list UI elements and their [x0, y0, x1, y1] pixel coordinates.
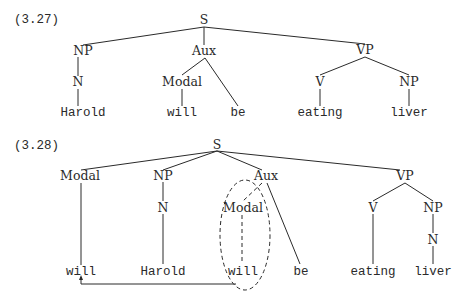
example-number: (3.27): [14, 14, 59, 27]
dashed-branch-aux-modal: [243, 183, 262, 201]
node-aux: Aux: [254, 170, 278, 183]
word-liver: liver: [414, 266, 452, 279]
node-np: NP: [73, 45, 92, 58]
word-will-fronted: will: [66, 266, 96, 279]
node-vp: VP: [356, 44, 373, 57]
node-s: S: [213, 139, 222, 152]
node-np-object: NP: [399, 76, 418, 89]
branch-vp-v: [373, 183, 405, 201]
word-eating: eating: [297, 107, 342, 120]
branch-s-vp: [204, 27, 365, 44]
word-eating: eating: [350, 266, 395, 279]
branch-s-modal: [81, 151, 217, 170]
node-s: S: [200, 14, 209, 27]
node-v: V: [368, 202, 377, 215]
branch-s-np: [83, 27, 204, 45]
tree-branches: [0, 0, 466, 297]
node-modal-fronted: Modal: [60, 170, 100, 183]
word-be: be: [293, 266, 308, 279]
branch-s-vp: [217, 151, 400, 170]
node-np-object: NP: [423, 202, 442, 215]
node-aux: Aux: [192, 45, 216, 58]
node-modal: Modal: [162, 76, 202, 89]
node-v: V: [315, 76, 324, 89]
example-number: (3.28): [14, 140, 59, 153]
node-np: NP: [153, 170, 172, 183]
branch-aux-modal: [182, 58, 205, 75]
word-harold: Harold: [140, 266, 185, 279]
syntax-tree-figure: (3.27) S NP Aux VP N Modal V NP Harold w…: [0, 0, 466, 297]
node-modal-trace: Modal: [223, 202, 263, 215]
node-n: N: [73, 76, 84, 89]
word-will: will: [167, 107, 197, 120]
node-vp: VP: [396, 170, 413, 183]
branch-vp-v: [320, 57, 365, 75]
word-will-trace: will: [228, 266, 258, 279]
branch-vp-np: [405, 183, 433, 201]
word-liver: liver: [390, 107, 428, 120]
branch-vp-np: [365, 57, 409, 75]
node-n-object: N: [428, 234, 439, 247]
node-n: N: [158, 202, 169, 215]
branch-aux-be: [267, 183, 300, 264]
word-be: be: [230, 107, 245, 120]
branch-aux-be: [205, 58, 238, 106]
word-harold: Harold: [60, 107, 105, 120]
